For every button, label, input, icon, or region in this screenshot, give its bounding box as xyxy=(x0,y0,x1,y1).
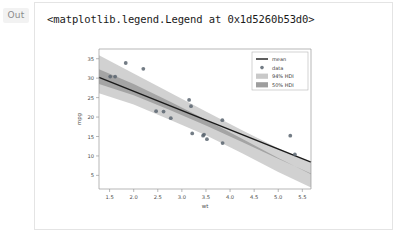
output-card: <matplotlib.legend.Legend at 0x1d5260b53… xyxy=(34,2,393,230)
data-point[interactable] xyxy=(221,141,225,145)
data-point[interactable] xyxy=(162,110,166,114)
x-tick-label: 3.0 xyxy=(178,194,186,200)
x-tick-label: 1.5 xyxy=(105,194,113,200)
data-point[interactable] xyxy=(288,134,292,138)
legend-swatch-band xyxy=(256,82,268,87)
data-point[interactable] xyxy=(187,98,191,102)
y-tick-label: 35 xyxy=(87,56,94,62)
legend-label: 50% HDI xyxy=(272,82,294,88)
data-point[interactable] xyxy=(169,116,173,120)
legend-swatch-marker xyxy=(260,66,264,70)
x-tick-label: 4.0 xyxy=(226,194,234,200)
data-point[interactable] xyxy=(293,152,297,156)
data-point[interactable] xyxy=(190,131,194,135)
data-point[interactable] xyxy=(124,61,128,65)
data-point[interactable] xyxy=(154,109,158,113)
y-tick-label: 15 xyxy=(87,134,94,140)
x-tick-label: 5.5 xyxy=(298,194,306,200)
output-prompt-label: Out xyxy=(3,8,29,23)
legend-label: 94% HDI xyxy=(272,73,294,79)
x-axis-title: wt xyxy=(202,203,209,209)
y-tick-label: 10 xyxy=(87,153,94,159)
legend-swatch-band xyxy=(256,74,268,79)
x-tick-label: 3.5 xyxy=(202,194,210,200)
x-tick-label: 5.0 xyxy=(274,194,282,200)
data-point[interactable] xyxy=(220,118,224,122)
legend-label: data xyxy=(272,65,283,71)
data-point[interactable] xyxy=(113,75,117,79)
y-tick-label: 25 xyxy=(87,95,94,101)
data-point[interactable] xyxy=(141,67,145,71)
figure-canvas: 1.52.02.53.03.54.04.55.05.55101520253035… xyxy=(43,39,333,225)
y-tick-label: 20 xyxy=(87,114,94,120)
data-point[interactable] xyxy=(202,133,206,137)
y-tick-label: 30 xyxy=(87,75,94,81)
x-tick-label: 2.5 xyxy=(154,194,162,200)
x-tick-label: 2.0 xyxy=(130,194,138,200)
matplotlib-figure: 1.52.02.53.03.54.04.55.05.55101520253035… xyxy=(43,39,333,225)
legend-label: mean xyxy=(272,56,286,62)
data-point[interactable] xyxy=(108,75,112,79)
y-axis-title: mpg xyxy=(76,113,83,125)
repr-text: <matplotlib.legend.Legend at 0x1d5260b53… xyxy=(47,13,315,25)
y-tick-label: 5 xyxy=(91,172,94,178)
x-tick-label: 4.5 xyxy=(250,194,258,200)
data-point[interactable] xyxy=(205,137,209,141)
data-point[interactable] xyxy=(189,104,193,108)
notebook-output-cell: Out <matplotlib.legend.Legend at 0x1d526… xyxy=(0,0,408,250)
